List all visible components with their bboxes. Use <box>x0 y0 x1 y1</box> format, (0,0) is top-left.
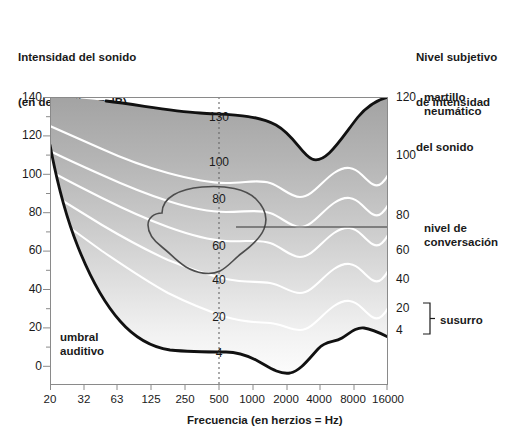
umbral-auditivo-line-2: auditivo <box>60 344 104 358</box>
x-tick-250: 250 <box>171 393 199 405</box>
susurro-annotation: susurro <box>440 313 483 327</box>
contour-label-4: 4 <box>204 346 234 360</box>
right-tick-80: 80 <box>396 208 409 222</box>
right-tick-40: 40 <box>396 272 409 286</box>
martillo-neumatico-line-1: martillo <box>424 90 482 104</box>
contour-label-100: 100 <box>204 155 234 169</box>
x-tick-1000: 1000 <box>236 393 268 405</box>
x-tick-500: 500 <box>205 393 233 405</box>
y-tick-120: 120 <box>8 128 42 142</box>
y-tick-60: 60 <box>8 243 42 257</box>
contour-label-40: 40 <box>204 273 234 287</box>
x-tick-16000: 16000 <box>368 393 408 405</box>
umbral-auditivo-annotation: umbral auditivo <box>60 330 104 358</box>
y-tick-40: 40 <box>8 282 42 296</box>
x-tick-125: 125 <box>137 393 165 405</box>
y-tick-140: 140 <box>8 90 42 104</box>
martillo-neumatico-annotation: martillo neumático <box>424 90 482 118</box>
contour-label-80: 80 <box>204 192 234 206</box>
x-tick-4000: 4000 <box>303 393 335 405</box>
x-tick-20: 20 <box>36 393 64 405</box>
y-axis-title-line-1: Intensidad del sonido <box>18 50 136 65</box>
contour-label-60: 60 <box>204 239 234 253</box>
contour-label-130: 130 <box>204 110 234 124</box>
x-tick-2000: 2000 <box>270 393 302 405</box>
nivel-conversacion-line-1: nivel de <box>424 221 498 235</box>
y-tick-20: 20 <box>8 320 42 334</box>
x-axis-title: Frecuencia (en herzios = Hz) <box>187 414 343 426</box>
nivel-conversacion-line-2: conversación <box>424 235 498 249</box>
umbral-auditivo-line-1: umbral <box>60 330 104 344</box>
x-axis-ticks <box>50 385 395 393</box>
y-tick-0: 0 <box>8 359 42 373</box>
contour-label-20: 20 <box>204 310 234 324</box>
right-tick-4: 4 <box>396 323 403 337</box>
y-axis-ticks <box>40 90 54 390</box>
right-tick-20: 20 <box>396 301 409 315</box>
right-axis-title-line-3: del sonido <box>416 140 497 155</box>
susurro-bracket <box>421 302 435 336</box>
y-tick-100: 100 <box>8 167 42 181</box>
right-tick-100: 100 <box>396 148 416 162</box>
right-tick-120: 120 <box>396 90 416 104</box>
y-tick-80: 80 <box>8 205 42 219</box>
right-axis-title-line-1: Nivel subjetivo <box>416 50 497 65</box>
nivel-conversacion-annotation: nivel de conversación <box>424 221 498 249</box>
martillo-neumatico-line-2: neumático <box>424 104 482 118</box>
right-tick-60: 60 <box>396 243 409 257</box>
x-tick-63: 63 <box>103 393 131 405</box>
x-tick-32: 32 <box>70 393 98 405</box>
x-tick-8000: 8000 <box>337 393 369 405</box>
